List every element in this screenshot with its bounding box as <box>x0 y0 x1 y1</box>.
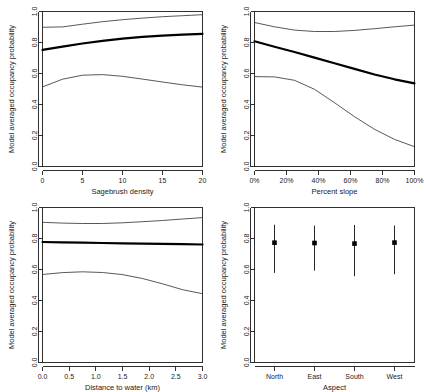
x-tick-label: 0.0 <box>38 373 48 380</box>
x-tick-label: 1.0 <box>91 373 101 380</box>
point-west <box>392 240 397 245</box>
panel-sagebrush-density: 0.0 0.2 0.4 0.6 0.8 1.0 0 5 10 15 20 <box>0 0 212 196</box>
y-tick-label: 0.2 <box>31 327 38 337</box>
upper-ci-curve <box>43 218 203 224</box>
y-tick-label: 0.6 <box>31 265 38 275</box>
panel-distance-to-water: 0.0 0.2 0.4 0.6 0.8 1.0 0.0 0.5 1.0 1.5 <box>0 196 212 392</box>
y-tick-label: 1.0 <box>31 203 38 213</box>
y-tick-label: 0.2 <box>31 131 38 141</box>
y-tick-label: 0.4 <box>31 100 38 110</box>
y-tick-label: 0.0 <box>243 358 250 368</box>
x-axis-title: Distance to water (km) <box>85 383 161 392</box>
mean-curve <box>43 242 203 245</box>
x-tick-label: 0 <box>41 177 45 184</box>
x-axis-slope: 0% 20% 40% 60% 80% 100% <box>249 171 423 185</box>
y-tick-label: 0.6 <box>243 265 250 275</box>
x-tick-label: 80% <box>375 177 389 184</box>
x-axis-water: 0.0 0.5 1.0 1.5 2.0 2.5 3.0 <box>38 367 208 381</box>
mean-curve <box>43 34 203 50</box>
y-axis-title: Model averaged occupancy probability <box>7 221 16 349</box>
x-axis-title: Aspect <box>323 383 347 392</box>
x-tick-label: 2.5 <box>171 373 181 380</box>
curves-water <box>43 218 203 294</box>
plot-frame <box>43 208 203 363</box>
panel-aspect: 0.0 0.2 0.4 0.6 0.8 1.0 North East South… <box>212 196 424 392</box>
y-tick-label: 0.0 <box>243 162 250 172</box>
y-tick-label: 0.2 <box>243 327 250 337</box>
y-tick-label: 0.6 <box>243 69 250 79</box>
plot-frame <box>255 208 415 363</box>
y-tick-label: 0.0 <box>31 358 38 368</box>
x-tick-label: 20 <box>199 177 207 184</box>
plot-distance-to-water: 0.0 0.2 0.4 0.6 0.8 1.0 0.0 0.5 1.0 1.5 <box>0 196 212 392</box>
x-tick-label: 10 <box>119 177 127 184</box>
point-north <box>272 240 277 245</box>
x-tick-label: 60% <box>343 177 357 184</box>
plot-percent-slope: 0.0 0.2 0.4 0.6 0.8 1.0 0% 20% 40% 60% 8… <box>212 0 424 196</box>
y-axis-aspect: 0.0 0.2 0.4 0.6 0.8 1.0 <box>243 203 255 368</box>
x-tick-label: West <box>387 373 403 380</box>
y-axis-title: Model averaged occupancy probability <box>219 25 228 153</box>
y-axis-water: 0.0 0.2 0.4 0.6 0.8 1.0 <box>31 203 43 368</box>
y-axis-sagebrush: 0.0 0.2 0.4 0.6 0.8 1.0 <box>31 7 43 172</box>
point-south <box>352 241 357 246</box>
mean-curve <box>255 41 415 83</box>
lower-ci-curve <box>43 75 203 88</box>
x-axis-sagebrush: 0 5 10 15 20 <box>41 171 207 185</box>
x-tick-label: 3.0 <box>198 373 208 380</box>
x-tick-label: 100% <box>406 177 424 184</box>
x-tick-label: 0% <box>249 177 259 184</box>
errorbars-aspect <box>272 225 397 277</box>
x-tick-label: 0.5 <box>64 373 74 380</box>
point-east <box>312 241 317 246</box>
x-tick-label: North <box>266 373 283 380</box>
plot-sagebrush-density: 0.0 0.2 0.4 0.6 0.8 1.0 0 5 10 15 20 <box>0 0 212 196</box>
y-tick-label: 1.0 <box>243 7 250 17</box>
lower-ci-curve <box>43 272 203 294</box>
y-tick-label: 0.8 <box>243 38 250 48</box>
x-tick-label: 40% <box>311 177 325 184</box>
y-axis-title: Model averaged occupancy probability <box>7 25 16 153</box>
x-axis-title: Percent slope <box>312 187 358 196</box>
y-tick-label: 0.0 <box>31 162 38 172</box>
y-tick-label: 0.4 <box>243 296 250 306</box>
y-tick-label: 0.4 <box>31 296 38 306</box>
x-tick-label: 20% <box>279 177 293 184</box>
x-tick-label: East <box>307 373 321 380</box>
x-tick-label: 15 <box>159 177 167 184</box>
x-tick-label: South <box>345 373 363 380</box>
upper-ci-curve <box>255 23 415 32</box>
plot-aspect: 0.0 0.2 0.4 0.6 0.8 1.0 North East South… <box>212 196 424 392</box>
x-tick-label: 1.5 <box>118 373 128 380</box>
y-tick-label: 0.6 <box>31 69 38 79</box>
y-axis-title: Model averaged occupancy probability <box>219 221 228 349</box>
y-tick-label: 1.0 <box>243 203 250 213</box>
lower-ci-curve <box>255 77 415 147</box>
y-tick-label: 0.8 <box>243 234 250 244</box>
y-tick-label: 1.0 <box>31 7 38 17</box>
x-axis-title: Sagebrush density <box>91 187 153 196</box>
y-axis-slope: 0.0 0.2 0.4 0.6 0.8 1.0 <box>243 7 255 172</box>
panel-percent-slope: 0.0 0.2 0.4 0.6 0.8 1.0 0% 20% 40% 60% 8… <box>212 0 424 196</box>
multi-panel-figure: 0.0 0.2 0.4 0.6 0.8 1.0 0 5 10 15 20 <box>0 0 424 392</box>
plot-frame <box>255 12 415 167</box>
y-tick-label: 0.2 <box>243 131 250 141</box>
x-tick-label: 2.0 <box>144 373 154 380</box>
curves-sagebrush <box>43 15 203 87</box>
y-tick-label: 0.8 <box>31 38 38 48</box>
x-tick-label: 5 <box>81 177 85 184</box>
upper-ci-curve <box>43 15 203 28</box>
y-tick-label: 0.8 <box>31 234 38 244</box>
curves-slope <box>255 23 415 147</box>
y-tick-label: 0.4 <box>243 100 250 110</box>
x-axis-aspect: North East South West <box>255 367 415 381</box>
